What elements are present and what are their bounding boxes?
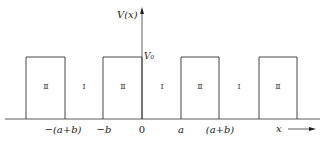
tick-label: −b <box>97 125 112 135</box>
v0-label: V₀ <box>144 52 154 61</box>
tick-label: a <box>178 125 184 135</box>
region-label: Ⅰ <box>160 83 163 91</box>
y-axis-arrow-icon <box>140 7 144 14</box>
x-axis-arrow-icon <box>309 127 316 131</box>
region-label: Ⅰ <box>82 83 85 91</box>
y-axis-label: V(x) <box>117 10 138 20</box>
region-label: Ⅱ <box>120 83 125 91</box>
region-label: Ⅱ <box>43 83 48 91</box>
tick-label: (a+b) <box>206 125 235 135</box>
tick-label: −(a+b) <box>45 125 82 135</box>
region-label: Ⅰ <box>237 83 240 91</box>
tick-label: 0 <box>139 125 145 135</box>
region-label: Ⅱ <box>275 83 280 91</box>
x-axis-label: x <box>276 124 282 134</box>
region-label: Ⅱ <box>197 83 202 91</box>
